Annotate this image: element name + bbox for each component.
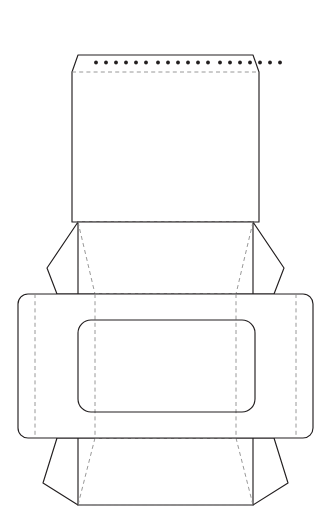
perforation-dot — [176, 61, 180, 65]
dieline-canvas — [0, 0, 331, 524]
center-band-outline — [18, 294, 313, 438]
perforation-dot — [144, 61, 148, 65]
perforation-dot — [124, 61, 128, 65]
perforation-dot — [238, 61, 242, 65]
perforation-dot — [114, 61, 118, 65]
lower-body-panel — [57, 438, 274, 505]
perforation-dot — [258, 61, 262, 65]
perforation-dot — [134, 61, 138, 65]
top-flap-outline — [72, 55, 259, 222]
perforation-dot — [156, 61, 160, 65]
perforation-dot — [186, 61, 190, 65]
upper-body-panel — [57, 222, 274, 294]
perforation-dot — [104, 61, 108, 65]
perforation-dot — [206, 61, 210, 65]
perforation-dot — [166, 61, 170, 65]
perforation-dot — [248, 61, 252, 65]
perforation-dot — [268, 61, 272, 65]
dieline-drawing — [0, 0, 331, 524]
perforation-dot — [94, 61, 98, 65]
perforation-dot — [218, 61, 222, 65]
perforation-dot — [196, 61, 200, 65]
perforation-dot — [228, 61, 232, 65]
perforation-dot — [278, 61, 282, 65]
